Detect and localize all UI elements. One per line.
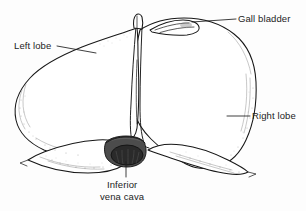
label-inferior-vena-cava-line2: vena cava (100, 191, 145, 202)
liver-anatomy-figure: Gall bladder Left lobe Right lobe Inferi… (0, 0, 306, 211)
inferior-vena-cava-shape (105, 136, 147, 167)
liver-apex-notch (134, 14, 143, 29)
label-right-lobe: Right lobe (252, 110, 296, 121)
liver-illustration: Gall bladder Left lobe Right lobe Inferi… (0, 0, 306, 211)
label-left-lobe: Left lobe (14, 40, 51, 51)
label-gall-bladder: Gall bladder (238, 13, 290, 24)
label-inferior-vena-cava-line1: Inferior (107, 179, 137, 190)
